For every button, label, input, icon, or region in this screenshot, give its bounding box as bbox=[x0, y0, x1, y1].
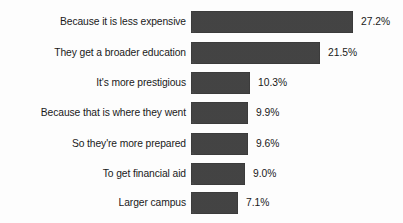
bar-value-label: 21.5% bbox=[328, 42, 357, 64]
bar bbox=[191, 72, 250, 94]
bar-value-label: 7.1% bbox=[246, 192, 269, 214]
bar-value-label: 27.2% bbox=[361, 11, 390, 33]
bar-chart: Because it is less expensive27.2%They ge… bbox=[0, 0, 403, 223]
category-label: So they're more prepared bbox=[0, 133, 186, 155]
bar bbox=[191, 192, 238, 214]
bar-chart-rows: Because it is less expensive27.2%They ge… bbox=[0, 0, 403, 223]
bar-value-label: 9.9% bbox=[256, 102, 279, 124]
category-label: It's more prestigious bbox=[0, 72, 186, 94]
bar bbox=[191, 11, 353, 33]
category-label: To get financial aid bbox=[0, 163, 186, 185]
bar-chart-row: It's more prestigious10.3% bbox=[0, 72, 403, 94]
bar-chart-row: They get a broader education21.5% bbox=[0, 42, 403, 64]
category-label: Because it is less expensive bbox=[0, 11, 186, 33]
bar-chart-row: Larger campus7.1% bbox=[0, 192, 403, 214]
bar-chart-row: Because it is less expensive27.2% bbox=[0, 11, 403, 33]
bar-chart-row: So they're more prepared9.6% bbox=[0, 133, 403, 155]
category-label: They get a broader education bbox=[0, 42, 186, 64]
bar bbox=[191, 163, 245, 185]
bar-value-label: 10.3% bbox=[258, 72, 287, 94]
bar-value-label: 9.0% bbox=[253, 163, 276, 185]
bar bbox=[191, 102, 248, 124]
category-label: Because that is where they went bbox=[0, 102, 186, 124]
bar-chart-row: Because that is where they went9.9% bbox=[0, 102, 403, 124]
bar-value-label: 9.6% bbox=[256, 133, 279, 155]
category-label: Larger campus bbox=[0, 192, 186, 214]
bar bbox=[191, 42, 320, 64]
bar-chart-row: To get financial aid9.0% bbox=[0, 163, 403, 185]
bar bbox=[191, 133, 248, 155]
